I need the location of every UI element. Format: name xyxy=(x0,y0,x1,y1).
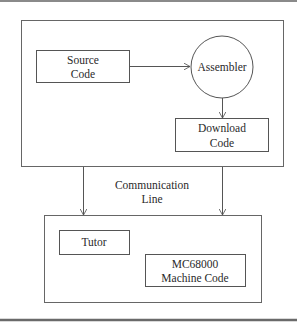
communication-line-label-line1: Communication xyxy=(115,179,189,191)
tutor-label: Tutor xyxy=(81,236,106,248)
machine-code-label-line1: MC68000 xyxy=(172,258,219,270)
source-code-label-line1: Source xyxy=(67,54,99,66)
download-code-label-line2: Code xyxy=(210,137,234,149)
assembler-node: Assembler xyxy=(191,36,253,98)
source-code-label-line2: Code xyxy=(71,68,95,80)
source-code-node: Source Code xyxy=(37,51,130,83)
assembler-label: Assembler xyxy=(197,61,246,73)
download-code-label-line1: Download xyxy=(198,122,246,134)
tutor-node: Tutor xyxy=(60,231,130,255)
machine-code-label-line2: Machine Code xyxy=(161,272,228,284)
diagram-canvas: Source Code Assembler Download Code Comm… xyxy=(0,0,297,322)
communication-line-label-line2: Line xyxy=(141,193,162,205)
machine-code-node: MC68000 Machine Code xyxy=(146,255,246,287)
download-code-node: Download Code xyxy=(176,119,269,152)
